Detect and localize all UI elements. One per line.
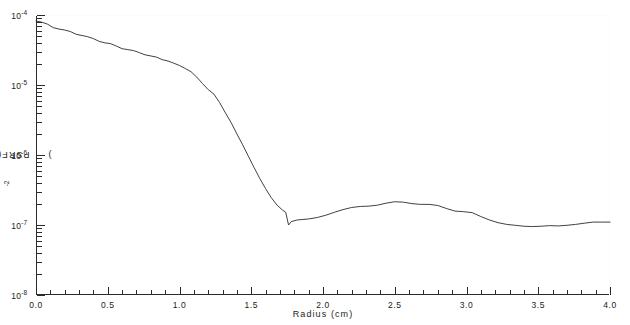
y-axis-title: PSRF(r) (cm-2) [2,15,16,295]
y-tick-label-exponent: -8 [21,289,27,296]
data-curve-layer [36,15,610,295]
plot-area: 0.00.51.01.52.02.53.03.54.0 10-410-510-6… [36,15,610,295]
y-tick-major [37,295,45,296]
y-tick-label-exponent: -5 [21,79,27,86]
psrf-data-curve [36,21,610,227]
x-tick-major [610,287,611,295]
y-axis-title-close: ) [0,150,51,160]
x-axis-title: Radius (cm) [36,309,610,319]
y-tick-label-exponent: -4 [21,9,27,16]
y-axis-title-exponent: -2 [3,181,10,187]
y-tick-label-exponent: -7 [21,219,27,226]
psrf-radial-profile-chart: 0.00.51.01.52.02.53.03.54.0 10-410-510-6… [0,0,630,325]
